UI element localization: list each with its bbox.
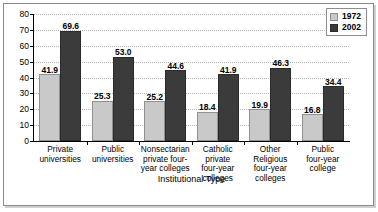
bar-value-label: 41.9 [220, 66, 237, 75]
bar-value-label: 69.6 [62, 22, 79, 31]
legend-label-2002: 2002 [342, 23, 361, 32]
bar-value-label: 25.2 [146, 93, 163, 102]
bar-value-label: 44.6 [167, 62, 184, 71]
bar-value-label: 25.3 [94, 92, 111, 101]
bar-value-label: 46.3 [272, 59, 289, 68]
legend-label-1972: 1972 [342, 12, 361, 21]
bar-groups: 41.969.625.353.025.244.618.441.919.946.3… [34, 14, 349, 141]
bar-group: 19.946.3 [244, 14, 297, 141]
bar-1972-2: 25.3 [92, 101, 113, 141]
legend-item-1972: 1972 [330, 11, 361, 22]
bar-group: 41.969.6 [34, 14, 87, 141]
bar-value-label: 18.4 [199, 103, 216, 112]
bar-2002-2: 53.0 [113, 57, 134, 141]
bar-group: 25.353.0 [87, 14, 140, 141]
legend-item-2002: 2002 [330, 22, 361, 33]
bar-2002-5: 46.3 [270, 68, 291, 142]
bar-1972-1: 41.9 [39, 74, 60, 141]
legend-swatch-1972-icon [330, 13, 338, 21]
bar-value-label: 53.0 [115, 48, 132, 57]
bar-value-label: 34.4 [325, 78, 342, 87]
bar-2002-3: 44.6 [165, 70, 186, 141]
bar-value-label: 16.8 [304, 106, 321, 115]
bar-value-label: 19.9 [251, 101, 268, 110]
bar-2002-6: 34.4 [323, 86, 344, 141]
legend-swatch-2002-icon [330, 24, 338, 32]
y-axis-title: Percent [0, 2, 1, 34]
bar-group: 25.244.6 [139, 14, 192, 141]
bar-2002-1: 69.6 [60, 31, 81, 141]
chart-figure: Percent 01020304050607080 41.969.625.353… [0, 0, 378, 212]
bar-1972-3: 25.2 [144, 101, 165, 141]
bar-group: 18.441.9 [192, 14, 245, 141]
bar-2002-4: 41.9 [218, 74, 239, 141]
chart-legend: 1972 2002 [326, 8, 367, 36]
x-axis-title: Institutional Type [34, 174, 349, 184]
bar-1972-5: 19.9 [249, 109, 270, 141]
bar-1972-4: 18.4 [197, 112, 218, 141]
bar-1972-6: 16.8 [302, 114, 323, 141]
bar-value-label: 41.9 [41, 66, 58, 75]
